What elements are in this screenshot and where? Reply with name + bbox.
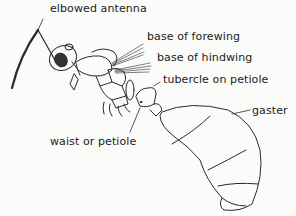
- label-base-of-hindwing: base of hindwing: [157, 52, 252, 64]
- label-elbowed-antenna: elbowed antenna: [50, 3, 147, 15]
- waist-leader-line: [130, 108, 140, 132]
- gaster-drawing: [160, 105, 261, 210]
- head-drawing: [45, 41, 81, 76]
- antenna-drawing: [12, 19, 56, 88]
- label-base-of-forewing: base of forewing: [147, 31, 240, 43]
- thorax-drawing: [70, 49, 134, 116]
- label-tubercle-on-petiole: tubercle on petiole: [163, 74, 268, 86]
- petiole-drawing: [136, 82, 162, 116]
- ant-anatomy-diagram: elbowed antenna base of forewing base of…: [0, 0, 296, 216]
- label-waist-or-petiole: waist or petiole: [50, 136, 136, 148]
- label-gaster: gaster: [252, 105, 288, 117]
